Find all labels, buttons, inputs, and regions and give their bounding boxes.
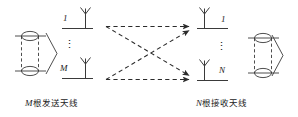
- tx-antenna-M-label: M: [60, 64, 68, 73]
- rx-vertical-ellipsis: ⋮: [216, 41, 227, 52]
- tx-vertical-ellipsis: ⋮: [64, 39, 75, 50]
- rx-bracket-chevron: [272, 35, 283, 76]
- rx-antenna-N-fork-right: [205, 60, 210, 67]
- tx-antenna-M-fork-left: [81, 58, 86, 65]
- tx-bracket-chevron: [46, 33, 57, 74]
- mimo-antenna-diagram: 1 M ⋮ 1 N ⋮ M根发送天线 N根接收天线: [0, 0, 298, 117]
- rx-antenna-N-label: N: [219, 66, 225, 75]
- tx-caption-text: 根发送天线: [33, 98, 78, 108]
- rx-antenna-1-fork-right: [205, 8, 210, 15]
- rx-decoder-block: [248, 33, 283, 77]
- path-tx1-to-rxN: [106, 27, 189, 76]
- tx-antenna-M-fork-right: [86, 58, 91, 65]
- rx-antenna-1-fork-left: [200, 8, 205, 15]
- tx-caption: M根发送天线: [25, 99, 78, 108]
- channel-paths: [106, 27, 189, 80]
- tx-caption-variable: M: [25, 98, 33, 108]
- tx-antenna-1-label: 1: [63, 14, 68, 23]
- rx-antenna-N-fork-left: [200, 60, 205, 67]
- rx-antenna-1-label: 1: [221, 15, 226, 24]
- rx-caption-text: 根接收天线: [202, 98, 247, 108]
- rx-caption: N根接收天线: [196, 99, 247, 108]
- tx-encoder-block: [15, 31, 57, 75]
- tx-antenna-1-fork-left: [81, 8, 86, 15]
- tx-antenna-1-fork-right: [86, 8, 91, 15]
- path-txM-to-rx1: [106, 31, 189, 80]
